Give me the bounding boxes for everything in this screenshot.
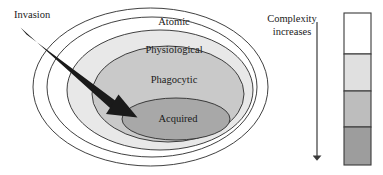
invasion-label: Invasion	[14, 9, 51, 20]
diagram-root: Atomic Physiological Phagocytic Acquired…	[0, 0, 383, 175]
ring-label-acquired: Acquired	[158, 113, 198, 124]
complexity-label-line1: Complexity	[267, 13, 317, 24]
diagram-canvas: Atomic Physiological Phagocytic Acquired…	[0, 0, 383, 175]
complexity-label-line2: increases	[273, 26, 311, 37]
scale-segment-atomic	[344, 13, 371, 54]
scale-segment-phagocytic	[344, 91, 371, 127]
ring-label-physiological: Physiological	[145, 44, 202, 55]
scale-segment-physiological	[344, 54, 371, 91]
ellipse-stack	[33, 8, 268, 166]
scale-segment-acquired	[344, 127, 371, 165]
ring-label-atomic: Atomic	[158, 16, 190, 27]
scale-bar	[344, 13, 371, 165]
ring-label-phagocytic: Phagocytic	[151, 74, 198, 85]
